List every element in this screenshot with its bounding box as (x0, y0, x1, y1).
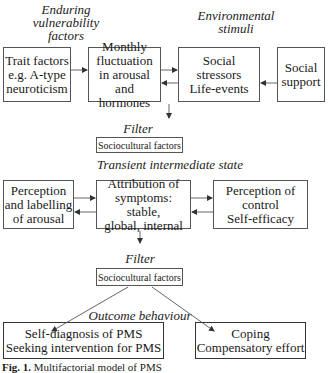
caption-text: Multifactorial model of PMS (34, 361, 162, 373)
figure-caption: Fig. 1. Multifactorial model of PMS (2, 361, 162, 373)
caption-prefix: Fig. 1. (2, 361, 31, 373)
